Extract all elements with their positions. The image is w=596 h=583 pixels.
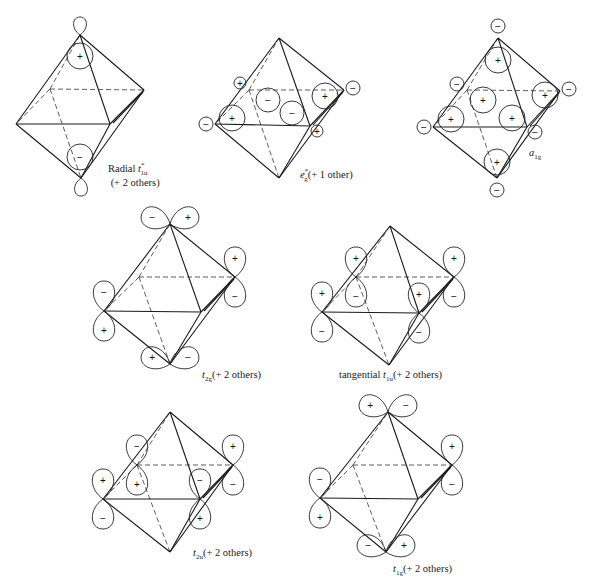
phase-sign: − (454, 79, 460, 90)
symmetry-subscript: 1u (386, 375, 393, 383)
phase-sign: − (232, 291, 238, 302)
octahedron-edges (103, 412, 233, 552)
phase-sign: − (197, 475, 203, 486)
phase-sign: + (229, 113, 235, 124)
phase-sign: + (77, 51, 83, 62)
phase-sign: − (289, 108, 295, 119)
orbital-lobes: ++−−−+−+ (199, 77, 360, 137)
phase-sign: − (449, 479, 455, 490)
hidden-edges (320, 412, 452, 552)
symmetry-subscript: 1u (140, 169, 147, 177)
caption-eg-star: e*g(+ 1 other) (300, 168, 353, 183)
caption-line2: (+ 2 others) (108, 177, 160, 188)
hidden-edges (322, 226, 454, 365)
phase-sign: − (149, 212, 155, 223)
phase-sign: + (367, 400, 373, 411)
phase-sign: + (134, 479, 140, 490)
diagram-t2u: −++−+−−+ (92, 412, 243, 552)
orbital-lobe (75, 178, 88, 196)
phase-sign: + (101, 325, 107, 336)
phase-sign: − (265, 95, 271, 106)
phase-sign: + (451, 253, 457, 264)
phase-sign: + (232, 253, 238, 264)
phase-sign: − (350, 83, 356, 94)
phase-sign: − (353, 291, 359, 302)
octahedron-edges (104, 224, 235, 364)
phase-sign: − (185, 352, 191, 363)
orbital-lobe (74, 17, 87, 35)
phase-sign: + (416, 289, 422, 300)
phase-sign: − (134, 441, 140, 452)
phase-sign: − (532, 127, 538, 138)
phase-sign: + (494, 157, 500, 168)
hidden-edges (104, 224, 235, 364)
phase-sign: − (230, 479, 236, 490)
symmetry-subscript: 2u (196, 553, 203, 561)
phase-sign: + (480, 95, 486, 106)
phase-sign: + (542, 90, 548, 101)
octahedron-edges (320, 412, 452, 552)
phase-sign: + (237, 78, 243, 89)
caption-t1g: t1g(+ 2 others) (393, 563, 452, 578)
orbital-lobe (357, 535, 386, 557)
phase-sign: + (314, 126, 320, 137)
phase-sign: − (421, 122, 427, 133)
orbital-lobes: +−+−+−+− (311, 247, 464, 343)
phase-sign: + (230, 441, 236, 452)
caption-suffix: (+ 1 other) (308, 169, 353, 180)
phase-sign: + (317, 512, 323, 523)
phase-sign: + (449, 441, 455, 452)
phase-sign: + (495, 55, 501, 66)
hidden-edges (215, 38, 344, 178)
phase-sign: − (403, 400, 409, 411)
phase-sign: − (416, 327, 422, 338)
phase-sign: + (100, 475, 106, 486)
phase-sign: + (149, 352, 155, 363)
hidden-edges (103, 412, 233, 552)
caption-radial-t1u: Radial t*1u (+ 2 others) (108, 162, 160, 189)
phase-sign: − (101, 287, 107, 298)
phase-sign: + (185, 212, 191, 223)
orbital-lobe (359, 395, 388, 417)
orbital-lobes: +−+−−+−+ (309, 395, 462, 557)
phase-sign: + (322, 91, 328, 102)
octahedron-edges (322, 226, 454, 365)
diagram-t1g: +−+−−+−+ (309, 395, 462, 557)
caption-t2u: t2u(+ 2 others) (193, 547, 252, 562)
caption-prefix: tangential (339, 369, 383, 380)
orbital-lobe (141, 207, 170, 229)
caption-suffix: (+ 2 others) (393, 369, 442, 380)
phase-sign: − (495, 21, 501, 32)
diagram-a1g: −+−++−++−−+− (417, 19, 576, 197)
phase-sign: − (451, 291, 457, 302)
caption-suffix: (+ 2 others) (212, 369, 261, 380)
phase-sign: + (353, 253, 359, 264)
phase-sign: − (319, 326, 325, 337)
phase-sign: − (566, 84, 572, 95)
phase-sign: − (317, 474, 323, 485)
caption-suffix: (+ 2 others) (203, 547, 252, 558)
phase-sign: − (494, 185, 500, 196)
phase-sign: − (77, 152, 83, 163)
caption-t2g: t2g(+ 2 others) (202, 369, 261, 384)
phase-sign: − (365, 540, 371, 551)
orbital-lobes: −+−++−++−−+− (417, 19, 576, 197)
phase-sign: − (100, 513, 106, 524)
diagram-tangential-t1u: +−+−+−+− (311, 226, 464, 365)
orbital-lobe (141, 347, 170, 369)
caption-a1g: a1g (529, 147, 541, 162)
phase-sign: − (203, 119, 209, 130)
caption-suffix: (+ 2 others) (403, 563, 452, 574)
octahedral-orbitals-figure: +−++−−−+−+−+−++−++−−+−−++−−++−+−+−+−+−−+… (0, 0, 596, 583)
phase-sign: + (509, 113, 515, 124)
symmetry-subscript: 1g (534, 153, 541, 161)
caption-prefix: Radial (108, 163, 138, 174)
phase-sign: + (448, 114, 454, 125)
orbital-lobes: −++−−++− (93, 207, 245, 369)
symmetry-subscript: 1g (396, 569, 403, 577)
diagram-eg-star: ++−−−+−+ (199, 38, 360, 178)
caption-tangential-t1u: tangential t1u(+ 2 others) (339, 369, 442, 384)
symmetry-subscript: 2g (205, 375, 212, 383)
phase-sign: + (197, 513, 203, 524)
phase-sign: + (319, 288, 325, 299)
